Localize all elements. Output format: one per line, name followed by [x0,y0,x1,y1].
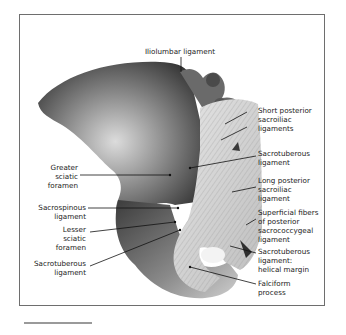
label-sacrospinous-ligament: Sacrospinous ligament [38,203,86,221]
lesser-sciatic-foramen-shape [201,247,225,263]
label-greater-sciatic-foramen: Greater sciatic foramen [48,163,78,190]
label-short-posterior-sacroiliac: Short posterior sacroiliac ligaments [258,106,312,133]
ilium-bone [38,62,210,221]
label-long-posterior-sacroiliac: Long posterior sacroiliac ligament [258,176,310,203]
label-lesser-sciatic-foramen: Lesser sciatic foramen [56,225,86,252]
label-sacrotuberous-ligament-upper: Sacrotuberous ligament [258,149,310,167]
footer-rule [24,322,92,324]
label-iliolumbar-ligament: Iliolumbar ligament [145,47,215,56]
label-sacrotuberous-ligament-lower: Sacrotuberous ligament [34,259,86,277]
label-superficial-fibers-sacrococcygeal: Superficial fibers of posterior sacrococ… [258,208,318,244]
label-sacrotuberous-helical-margin: Sacrotuberous ligament: helical margin [258,247,310,274]
label-falciform-process: Falciform process [258,279,291,297]
